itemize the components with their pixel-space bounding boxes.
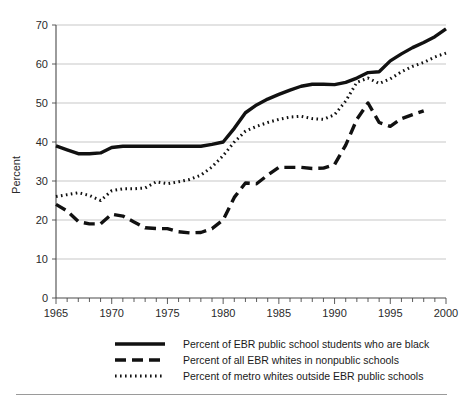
x-tick-label: 1965 <box>44 307 68 319</box>
x-tick-label: 1970 <box>99 307 123 319</box>
x-tick-label: 2000 <box>434 307 458 319</box>
x-tick-label: 1990 <box>322 307 346 319</box>
legend-label: Percent of all EBR whites in nonpublic s… <box>183 354 399 366</box>
chart-figure: 010203040506070 196519701975198019851990… <box>0 0 461 407</box>
line-chart: 010203040506070 196519701975198019851990… <box>0 0 461 407</box>
y-tick-label: 10 <box>36 253 48 265</box>
x-tick-label: 1975 <box>155 307 179 319</box>
x-tick-label: 1985 <box>267 307 291 319</box>
x-tick-label: 1995 <box>378 307 402 319</box>
y-tick-label: 20 <box>36 214 48 226</box>
y-axis-title: Percent <box>10 156 22 194</box>
y-tick-label: 40 <box>36 136 48 148</box>
y-tick-label: 30 <box>36 175 48 187</box>
legend-label: Percent of EBR public school students wh… <box>183 338 430 350</box>
y-tick-label: 70 <box>36 19 48 31</box>
x-tick-label: 1980 <box>211 307 235 319</box>
y-tick-label: 50 <box>36 97 48 109</box>
y-tick-label: 60 <box>36 58 48 70</box>
y-tick-label: 0 <box>42 292 48 304</box>
legend-label: Percent of metro whites outside EBR publ… <box>183 370 423 382</box>
